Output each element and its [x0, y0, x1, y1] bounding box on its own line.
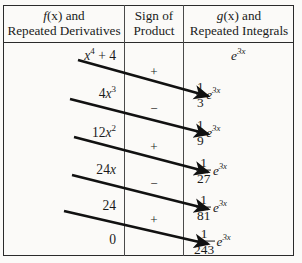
integral-fraction-2: 19 [196, 117, 205, 148]
integral-exp-power-0: 3x [237, 46, 245, 56]
derivative-coef-1: 4 [99, 86, 106, 101]
derivative-cell-3: 24x [96, 162, 116, 178]
header-right-arg: (x) [223, 8, 238, 23]
column-header-integrals: g(x) and Repeated Integrals [184, 6, 294, 42]
sign-cell-2: + [125, 139, 183, 155]
header-right-line1: g(x) and [217, 9, 261, 24]
derivative-cell-5: 0 [109, 232, 116, 248]
column-header-sign: Sign of Product [125, 6, 183, 42]
header-middle-line2: Product [133, 24, 174, 39]
integral-fraction-4: 181 [196, 192, 211, 223]
derivative-coef-5: 0 [109, 232, 116, 247]
integral-fraction-3: 127 [196, 155, 211, 186]
header-left-tail: and [62, 8, 84, 23]
integral-cell-1: 13e3x [196, 80, 220, 111]
integral-exp-power-1: 3x [212, 86, 220, 96]
derivative-coef-4: 24 [102, 198, 116, 213]
derivative-exponent-1: 3 [112, 84, 116, 94]
integral-numerator-3: 1 [196, 155, 211, 169]
integral-numerator-4: 1 [196, 192, 211, 206]
tabular-integration-figure: f(x) and Repeated Derivatives Sign of Pr… [0, 0, 302, 263]
integral-exp-power-5: 3x [222, 233, 230, 243]
header-separator-rule [3, 42, 294, 43]
integral-denominator-3: 27 [196, 172, 211, 186]
sign-cell-3: − [125, 176, 183, 192]
derivative-base-3: x [110, 162, 116, 177]
header-left-line1: f(x) and [43, 9, 84, 24]
derivative-cell-2: 12x2 [92, 125, 116, 141]
derivative-cell-0: x4 + 4 [84, 48, 116, 64]
integral-cell-5: 1243e3x [193, 227, 231, 258]
integral-exp-5: e3x [217, 234, 231, 250]
integral-cell-2: 19e3x [196, 118, 220, 149]
column-divider-right [183, 5, 184, 256]
header-right-line2: Repeated Integrals [190, 24, 289, 39]
integral-numerator-2: 1 [196, 117, 205, 131]
integral-fraction-5: 1243 [193, 226, 215, 257]
derivative-cell-1: 4x3 [99, 86, 116, 102]
integral-denominator-2: 9 [196, 134, 205, 148]
integral-cell-4: 181e3x [196, 193, 227, 224]
integral-exp-power-4: 3x [219, 199, 227, 209]
integral-denominator-1: 3 [196, 96, 205, 110]
integral-exp-3: e3x [213, 163, 227, 179]
integral-denominator-4: 81 [196, 209, 211, 223]
header-left-arg: (x) [47, 8, 62, 23]
integral-exp-1: e3x [206, 87, 220, 103]
integral-exp-2: e3x [206, 125, 220, 141]
integral-numerator-5: 1 [193, 226, 215, 240]
header-left-line2: Repeated Derivatives [7, 24, 120, 39]
integral-exp-4: e3x [213, 200, 227, 216]
integral-exp-power-3: 3x [219, 162, 227, 172]
header-middle-line1: Sign of [135, 9, 173, 24]
integral-cell-3: 127e3x [196, 156, 227, 187]
derivative-cell-4: 24 [102, 198, 116, 214]
derivative-coef-3: 24 [96, 162, 110, 177]
derivative-coef-2: 12 [92, 125, 106, 140]
sign-cell-0: + [125, 64, 183, 80]
integral-numerator-1: 1 [196, 79, 205, 93]
integral-denominator-5: 243 [193, 243, 215, 257]
derivative-exponent-2: 2 [112, 123, 116, 133]
integral-cell-0: e3x [231, 48, 245, 64]
integral-exp-power-2: 3x [212, 124, 220, 134]
sign-cell-4: + [125, 212, 183, 228]
sign-cell-1: − [125, 101, 183, 117]
header-right-tail: and [239, 8, 261, 23]
column-header-derivatives: f(x) and Repeated Derivatives [4, 6, 124, 42]
derivative-tail-0: + 4 [95, 48, 116, 63]
integral-fraction-1: 13 [196, 79, 205, 110]
